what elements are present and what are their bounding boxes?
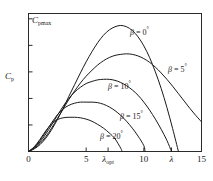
y-axis-label: Cp — [5, 72, 14, 81]
annotation-beta-20: β = 20° — [100, 130, 123, 141]
chart-figure: Cpmax Cp 05λopt10λ15 β = 0°β = 5°β = 10°… — [0, 0, 212, 181]
annotation-beta-15: β = 15° — [120, 110, 143, 121]
annotation-beta-10: β = 10° — [108, 80, 131, 91]
annotation-beta-5: β = 5° — [168, 63, 187, 74]
x-tick-label-3: 10 — [130, 155, 158, 164]
y-axis-subscript: p — [11, 76, 14, 82]
y-axis-top-label: Cpmax — [32, 16, 51, 25]
x-tick-label-0: 0 — [15, 155, 43, 164]
x-tick-label-4: λ — [158, 155, 186, 164]
y-axis-top-subscript: pmax — [38, 20, 51, 26]
annotation-beta-0: β = 0° — [130, 26, 149, 37]
x-tick-label-5: 15 — [188, 155, 213, 164]
x-tick-label-2: λopt — [94, 155, 122, 164]
